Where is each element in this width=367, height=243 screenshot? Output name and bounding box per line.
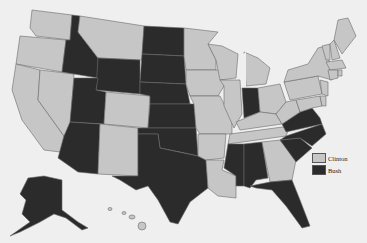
state-ks xyxy=(148,104,196,128)
state-sd xyxy=(140,54,186,84)
state-ri xyxy=(338,70,342,76)
legend-label: Bush xyxy=(328,167,341,174)
clinton-swatch xyxy=(312,153,326,163)
state-hi xyxy=(108,208,146,231)
state-co xyxy=(104,92,150,128)
state-wy xyxy=(96,58,140,94)
lake-michigan xyxy=(240,52,246,86)
legend: Clinton Bush xyxy=(312,152,348,176)
state-mi xyxy=(244,52,270,86)
state-ma xyxy=(326,60,346,70)
state-ct xyxy=(328,70,338,80)
legend-item-clinton: Clinton xyxy=(312,152,348,164)
election-map xyxy=(0,0,367,243)
state-ia xyxy=(186,70,224,96)
state-me xyxy=(334,18,356,54)
state-ar xyxy=(198,134,226,160)
state-nd xyxy=(142,26,184,56)
state-fl xyxy=(250,180,310,228)
state-ak xyxy=(10,176,88,236)
state-wa xyxy=(30,10,72,40)
legend-item-bush: Bush xyxy=(312,164,348,176)
legend-label: Clinton xyxy=(328,155,348,162)
state-nm xyxy=(98,124,138,176)
bush-swatch xyxy=(312,165,326,175)
state-ky xyxy=(236,112,282,130)
